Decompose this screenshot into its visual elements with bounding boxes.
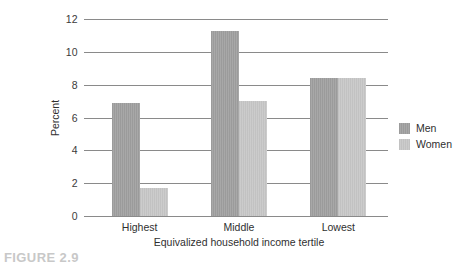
y-tick-label-0: 0	[72, 210, 78, 222]
y-tick-mark-8	[84, 85, 90, 86]
legend-swatch-men	[399, 123, 410, 134]
bar-lowest-men	[310, 78, 338, 216]
bar-middle-women	[239, 101, 267, 216]
chart-legend: MenWomen	[399, 120, 452, 152]
y-tick-label-12: 12	[66, 13, 78, 25]
y-tick-label-4: 4	[72, 144, 78, 156]
bar-lowest-women	[338, 78, 366, 216]
y-tick-mark-0	[84, 216, 90, 217]
bar-middle-men	[211, 31, 239, 217]
plot-area	[90, 19, 388, 216]
x-axis-title: Equivalized household income tertile	[154, 236, 324, 248]
gridline-10	[90, 52, 388, 53]
y-tick-mark-12	[84, 19, 90, 20]
legend-item-women[interactable]: Women	[399, 136, 452, 152]
y-tick-label-10: 10	[66, 46, 78, 58]
legend-swatch-women	[399, 139, 410, 150]
x-tick-label-highest: Highest	[122, 221, 158, 233]
bar-highest-men	[112, 103, 140, 216]
x-tick-label-lowest: Lowest	[322, 221, 355, 233]
y-tick-mark-4	[84, 150, 90, 151]
legend-label-men: Men	[416, 122, 436, 134]
y-tick-label-6: 6	[72, 112, 78, 124]
y-tick-mark-10	[84, 52, 90, 53]
gridline-0	[90, 216, 388, 217]
legend-item-men[interactable]: Men	[399, 120, 452, 136]
figure-container: Percent 024681012 HighestMiddleLowest Eq…	[0, 0, 474, 273]
figure-caption: FIGURE 2.9	[4, 250, 79, 265]
gridline-12	[90, 19, 388, 20]
y-axis-title: Percent	[49, 100, 61, 136]
bar-highest-women	[140, 188, 168, 216]
y-tick-label-8: 8	[72, 79, 78, 91]
x-tick-label-middle: Middle	[224, 221, 255, 233]
legend-label-women: Women	[416, 138, 452, 150]
y-tick-label-2: 2	[72, 177, 78, 189]
y-tick-mark-2	[84, 183, 90, 184]
y-tick-mark-6	[84, 118, 90, 119]
